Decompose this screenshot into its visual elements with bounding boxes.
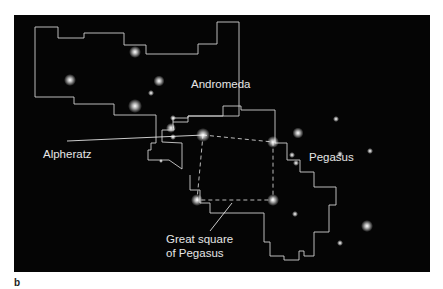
- alpheratz-label: Alpheratz: [43, 148, 92, 160]
- great-square-leader-line: [210, 203, 232, 231]
- panel-label: b: [14, 277, 20, 288]
- andromeda-boundary: [35, 22, 239, 169]
- great-square-label-line1: Great square: [166, 233, 233, 245]
- great-square-label-line2: of Pegasus: [166, 247, 224, 259]
- star-chart: Andromeda Pegasus Alpheratz Great square…: [14, 15, 430, 272]
- pegasus-label: Pegasus: [309, 151, 354, 163]
- andromeda-label: Andromeda: [191, 78, 250, 90]
- stars: [64, 46, 373, 246]
- great-square-outline: [197, 135, 273, 200]
- alpheratz-leader-line: [67, 135, 204, 141]
